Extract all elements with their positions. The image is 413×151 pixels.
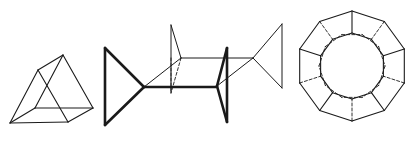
edge (217, 86, 227, 122)
edge (10, 122, 68, 123)
dashed-edge (319, 47, 325, 66)
edge (253, 58, 282, 88)
dashed-edge (325, 35, 342, 47)
edge (320, 11, 352, 22)
figure-canvas (0, 0, 413, 151)
edge (384, 83, 404, 111)
edge (300, 22, 320, 50)
edge (217, 48, 227, 86)
dashed-edge (320, 22, 333, 40)
line-drawing-figure (0, 0, 413, 151)
edge (352, 11, 384, 22)
edge (371, 93, 384, 111)
edge (300, 49, 321, 56)
edge (352, 93, 371, 99)
dashed-edge (362, 35, 379, 47)
decagonal-ring-drawing (300, 11, 405, 121)
edge (63, 55, 93, 108)
edge (371, 39, 383, 56)
edge (320, 110, 352, 121)
edge (144, 58, 181, 87)
edge (300, 83, 320, 111)
edge (321, 39, 333, 56)
dashed-edge (325, 85, 342, 97)
edge (333, 33, 352, 39)
edge (321, 76, 333, 93)
edge (371, 76, 383, 93)
edge (333, 93, 352, 99)
edge (352, 33, 371, 39)
triangular-prism-drawing (10, 55, 93, 123)
edge (253, 24, 282, 58)
dashed-edge (379, 47, 385, 66)
dashed-edge (362, 85, 379, 97)
edge (352, 110, 384, 121)
edge (383, 49, 404, 56)
edge (320, 93, 333, 111)
edge (171, 25, 181, 58)
edge (105, 87, 144, 125)
edge (105, 48, 144, 87)
dashed-edge (371, 22, 384, 40)
dashed-edge (379, 66, 385, 85)
edge (38, 70, 68, 122)
edge (68, 108, 93, 122)
linked-triangles-drawing (105, 24, 282, 125)
dashed-edge (319, 66, 325, 85)
edge (384, 22, 404, 50)
dashed-edge (383, 76, 404, 83)
dashed-edge (300, 76, 321, 83)
